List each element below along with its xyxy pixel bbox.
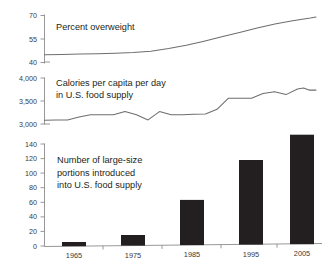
y-tick-label-3000: 3,000	[19, 120, 37, 129]
y-tick-label-70: 70	[29, 11, 37, 20]
bar-1995	[239, 160, 263, 245]
chart-panel-calories-per-capita: 4,000 3,500 3,000 Calories per capita pe…	[0, 66, 330, 132]
chart-panel-large-size-portions: 140 120 100 80 60 40 20 0 Number of larg…	[0, 132, 330, 272]
panel-annotation-portions-line3: into U.S. food supply	[57, 180, 142, 190]
panel-annotation-portions-line1: Number of large-size	[57, 155, 142, 165]
panel-annotation-calories-line1: Calories per capita per day	[56, 78, 166, 88]
y-tick-label-55: 55	[29, 35, 37, 44]
y-tick-label-3500: 3,500	[19, 97, 37, 106]
chart-panel-percent-overweight: 70 55 40 Percent overweight	[0, 0, 330, 72]
x-tick-label-1965: 1965	[66, 251, 82, 260]
bar-1985	[180, 200, 204, 245]
bar-1975	[121, 235, 145, 246]
bar-2005	[290, 135, 314, 245]
x-tick-label-1985: 1985	[184, 250, 200, 259]
y-tick-label-120: 120	[25, 154, 37, 163]
y-tick-label-20: 20	[29, 227, 37, 236]
panel-annotation-percent-overweight: Percent overweight	[56, 22, 135, 32]
y-tick-label-80: 80	[29, 183, 37, 192]
panel-annotation-calories-line2: in U.S. food supply	[56, 90, 134, 100]
y-tick-label-0: 0	[33, 242, 37, 251]
y-tick-label-40: 40	[29, 212, 37, 221]
x-tick-label-1995: 1995	[243, 250, 259, 259]
y-tick-label-60: 60	[29, 198, 37, 207]
calories-per-capita-plot: 4,000 3,500 3,000 Calories per capita pe…	[0, 66, 330, 132]
percent-overweight-plot: 70 55 40 Percent overweight	[0, 0, 330, 72]
y-tick-label-140: 140	[25, 140, 37, 149]
y-tick-label-100: 100	[25, 169, 37, 178]
large-size-portions-plot: 140 120 100 80 60 40 20 0 Number of larg…	[0, 132, 330, 272]
bar-1965	[62, 242, 86, 246]
x-tick-label-1975: 1975	[125, 251, 141, 260]
three-panel-figure: 70 55 40 Percent overweight 4,000 3,500 …	[0, 0, 330, 272]
x-tick-label-2005: 2005	[294, 249, 310, 258]
panel-annotation-portions-line2: portions introduced	[57, 168, 135, 178]
y-tick-label-4000: 4,000	[19, 74, 37, 83]
